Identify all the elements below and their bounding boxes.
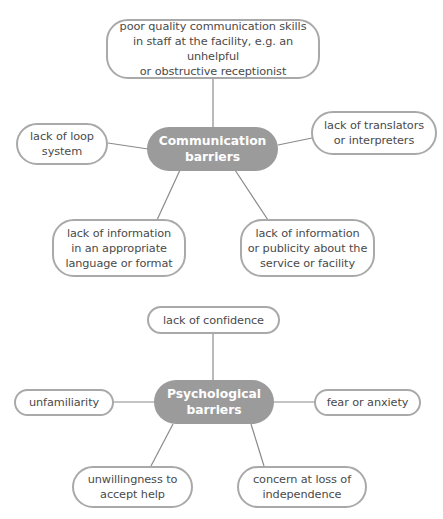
connector-psych-bottom-left [151, 424, 173, 466]
connector-comm-bottom-left [157, 170, 180, 220]
node-lack-of-translators: lack of translators or interpreters [311, 111, 437, 155]
node-lack-of-information-publicity: lack of information or publicity about t… [240, 219, 375, 277]
connector-comm-bottom-right [235, 170, 268, 220]
node-concern-at-loss-of-independence: concern at loss of independence [237, 466, 367, 508]
node-lack-of-loop-system: lack of loop system [16, 123, 108, 165]
node-unwillingness-to-accept-help: unwillingness to accept help [72, 466, 193, 508]
hub-psychological-barriers: Psychological barriers [154, 380, 274, 424]
connector-psych-bottom-right [251, 424, 264, 466]
node-fear-or-anxiety: fear or anxiety [314, 389, 421, 416]
connector-comm-right [278, 138, 312, 145]
hub-communication-barriers: Communication barriers [147, 127, 278, 171]
connector-comm-left [108, 143, 148, 149]
node-unfamiliarity: unfamiliarity [14, 389, 114, 416]
node-lack-of-confidence: lack of confidence [147, 306, 280, 334]
node-poor-communication-skills: poor quality communication skills in sta… [106, 19, 320, 79]
node-lack-of-information-format: lack of information in an appropriate la… [52, 219, 186, 277]
